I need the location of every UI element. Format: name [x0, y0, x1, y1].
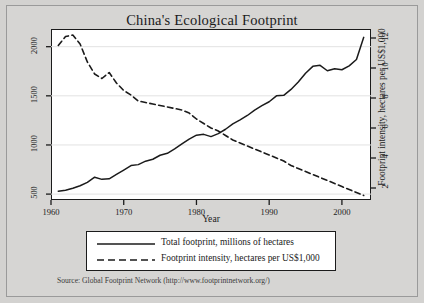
legend-label-total-footprint: Total footprint, millions of hectares — [161, 237, 294, 247]
y-axis-left-tick-1500: 1500 — [30, 81, 39, 107]
chart-legend: Total footprint, millions of hectares Fo… — [86, 231, 336, 271]
plot-area — [51, 29, 371, 200]
y-axis-right-tick-6: 6 — [381, 119, 390, 135]
y-axis-right-tick-8: 8 — [381, 89, 390, 105]
y-axis-left-tick-1000: 1000 — [30, 130, 39, 156]
chart-title: China's Ecological Footprint — [0, 12, 424, 29]
y-axis-right-tick-2: 2 — [381, 179, 390, 195]
x-axis-title: Year — [51, 213, 371, 224]
y-axis-right-tick-12: 12 — [381, 29, 390, 45]
legend-item-total-footprint: Total footprint, millions of hectares — [95, 236, 329, 252]
axis-ticks — [51, 29, 371, 200]
y-axis-left-tick-2000: 2000 — [30, 32, 39, 58]
legend-label-footprint-intensity: Footprint intensity, hectares per US$1,0… — [161, 253, 320, 263]
source-note: Source: Global Footprint Network (http:/… — [57, 276, 270, 285]
legend-line-solid-icon — [97, 241, 155, 247]
y-axis-left-tick-500: 500 — [30, 180, 39, 206]
chart-figure: China's Ecological Footprint Total footp… — [0, 0, 424, 303]
y-axis-right-tick-4: 4 — [381, 149, 390, 165]
y-axis-right-tick-10: 10 — [381, 59, 390, 75]
legend-line-dashed-icon — [97, 257, 155, 263]
legend-item-footprint-intensity: Footprint intensity, hectares per US$1,0… — [95, 252, 329, 268]
